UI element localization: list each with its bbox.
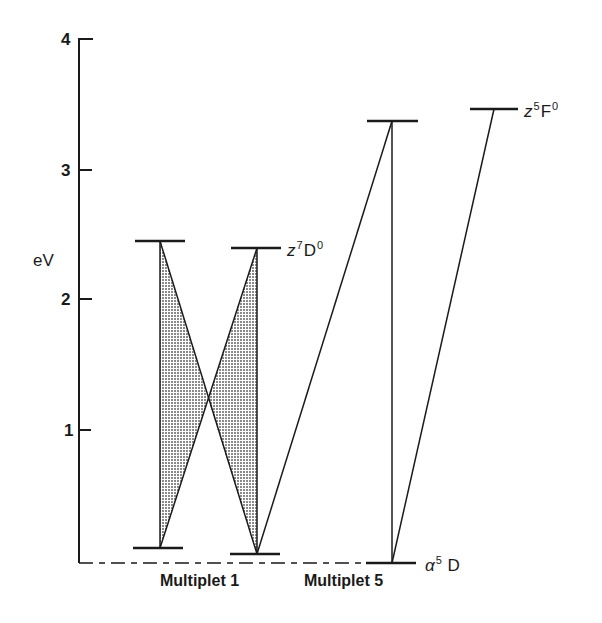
energy-axis xyxy=(79,38,93,563)
energy-level-diagram xyxy=(0,0,602,623)
tick-label-4: 4 xyxy=(61,31,70,48)
term-label-z5F0: z5F0 xyxy=(524,101,559,120)
tick-label-3: 3 xyxy=(61,162,70,179)
transition-a5D-z5F0 xyxy=(392,109,494,563)
tick-label-1: 1 xyxy=(64,422,73,439)
term-label-a5D: α5 D xyxy=(425,555,460,574)
term-label-z7D0: z7D0 xyxy=(287,240,324,259)
tick-label-2: 2 xyxy=(61,291,70,308)
axis-title-ev: eV xyxy=(33,252,54,269)
transition-lines xyxy=(160,109,494,563)
transition-to-m5-upper xyxy=(257,121,392,554)
group-label-multiplet-1: Multiplet 1 xyxy=(160,573,239,589)
group-label-multiplet-5: Multiplet 5 xyxy=(304,573,383,589)
